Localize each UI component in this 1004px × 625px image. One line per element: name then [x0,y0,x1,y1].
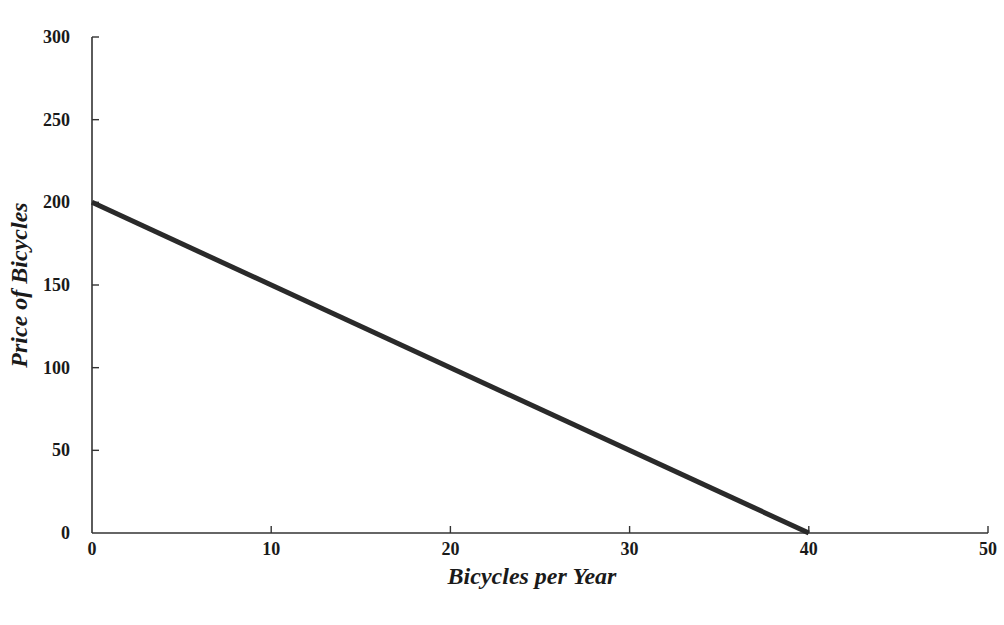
x-tick-label: 20 [441,539,459,559]
x-tick-label: 10 [262,539,280,559]
demand-chart: 050100150200250300 01020304050 Bicycles … [0,0,1004,625]
x-tick-label: 30 [621,539,639,559]
y-tick-label: 50 [52,440,70,460]
y-tick-label: 0 [61,523,70,543]
y-tick-label: 100 [43,358,70,378]
demand-line [92,202,809,533]
x-tick-label: 50 [979,539,997,559]
x-axis-ticks: 01020304050 [88,526,998,559]
y-axis-ticks: 050100150200250300 [43,27,99,543]
y-tick-label: 250 [43,110,70,130]
y-tick-label: 200 [43,192,70,212]
x-tick-label: 0 [88,539,97,559]
y-tick-label: 150 [43,275,70,295]
series-lines [92,202,809,533]
axes [92,37,988,533]
y-axis-title: Price of Bicycles [6,202,32,368]
x-tick-label: 40 [800,539,818,559]
y-tick-label: 300 [43,27,70,47]
x-axis-title: Bicycles per Year [447,563,618,589]
